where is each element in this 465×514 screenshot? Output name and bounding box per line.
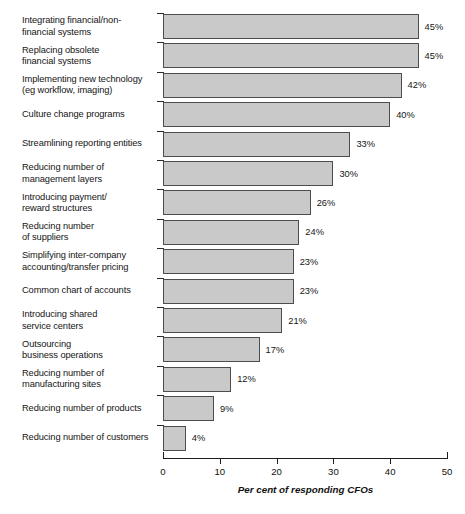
category-label: Reducing number of suppliers xyxy=(22,221,158,244)
category-label: Introducing payment/ reward structures xyxy=(22,192,158,215)
category-label: Reducing number of management layers xyxy=(22,162,158,185)
category-label: Culture change programs xyxy=(22,109,158,120)
x-axis-line xyxy=(163,458,448,459)
bar-row[interactable]: 23% xyxy=(163,279,447,304)
x-axis-tick xyxy=(390,458,391,464)
y-axis-tick xyxy=(157,248,164,249)
bar-row[interactable]: 40% xyxy=(163,102,447,127)
y-axis-tick xyxy=(157,101,164,102)
plot-area: 45%45%42%40%33%30%26%24%23%23%21%17%12%9… xyxy=(163,14,447,458)
bar-value-label: 24% xyxy=(305,227,324,237)
bar[interactable] xyxy=(163,73,402,98)
category-label: Simplifying inter-company accounting/tra… xyxy=(22,250,158,273)
bar-row[interactable]: 30% xyxy=(163,161,447,186)
bar[interactable] xyxy=(163,337,260,362)
bar-row[interactable]: 17% xyxy=(163,337,447,362)
category-label: Common chart of accounts xyxy=(22,285,158,296)
bar-value-label: 45% xyxy=(425,22,444,32)
x-axis-tick-label: 30 xyxy=(328,466,339,477)
bar-value-label: 23% xyxy=(300,257,319,267)
bar-chart: Integrating financial/non- financial sys… xyxy=(0,0,465,514)
category-label: Integrating financial/non- financial sys… xyxy=(22,15,158,38)
x-axis-right-cap xyxy=(447,452,448,459)
x-axis-tick xyxy=(220,458,221,464)
y-axis-tick xyxy=(157,425,164,426)
category-labels: Integrating financial/non- financial sys… xyxy=(0,0,158,458)
bar-row[interactable]: 24% xyxy=(163,220,447,245)
bar-row[interactable]: 12% xyxy=(163,367,447,392)
category-label: Reducing number of products xyxy=(22,403,158,414)
bar-row[interactable]: 26% xyxy=(163,190,447,215)
x-axis-tick-label: 0 xyxy=(160,466,165,477)
y-axis-tick xyxy=(157,189,164,190)
y-axis-tick xyxy=(157,72,164,73)
x-axis-tick-label: 10 xyxy=(214,466,225,477)
bar[interactable] xyxy=(163,396,214,421)
bar-value-label: 42% xyxy=(408,80,427,90)
bar-row[interactable]: 45% xyxy=(163,43,447,68)
y-axis-tick xyxy=(157,366,164,367)
bar-value-label: 30% xyxy=(339,169,358,179)
category-label: Introducing shared service centers xyxy=(22,309,158,332)
category-label: Reducing number of customers xyxy=(22,432,158,443)
bar[interactable] xyxy=(163,132,350,157)
bar-row[interactable]: 4% xyxy=(163,426,447,451)
bar[interactable] xyxy=(163,161,333,186)
bar-row[interactable]: 9% xyxy=(163,396,447,421)
y-axis-tick xyxy=(157,336,164,337)
bar-value-label: 4% xyxy=(192,433,205,443)
bar[interactable] xyxy=(163,220,299,245)
bar-value-label: 21% xyxy=(288,316,307,326)
category-label: Reducing number of manufacturing sites xyxy=(22,368,158,391)
bar-value-label: 26% xyxy=(317,198,336,208)
bar[interactable] xyxy=(163,426,186,451)
bar-row[interactable]: 45% xyxy=(163,14,447,39)
bar[interactable] xyxy=(163,249,294,274)
x-axis-left-cap xyxy=(163,452,164,459)
y-axis-tick xyxy=(157,42,164,43)
y-axis-tick xyxy=(157,278,164,279)
y-axis-tick xyxy=(157,219,164,220)
x-axis-tick-label: 40 xyxy=(385,466,396,477)
y-axis-tick xyxy=(157,160,164,161)
bar-row[interactable]: 33% xyxy=(163,132,447,157)
bar[interactable] xyxy=(163,102,390,127)
bar-value-label: 23% xyxy=(300,286,319,296)
bar-value-label: 9% xyxy=(220,404,233,414)
category-label: Replacing obsolete financial systems xyxy=(22,45,158,68)
y-axis-tick xyxy=(157,13,164,14)
bar-row[interactable]: 21% xyxy=(163,308,447,333)
x-axis-tick-label: 50 xyxy=(442,466,453,477)
bar-value-label: 45% xyxy=(425,51,444,61)
bar-value-label: 12% xyxy=(237,374,256,384)
bar[interactable] xyxy=(163,367,231,392)
y-axis-tick xyxy=(157,131,164,132)
bar-value-label: 40% xyxy=(396,110,415,120)
category-label: Implementing new technology (eg workflow… xyxy=(22,74,158,97)
x-axis-tick-label: 20 xyxy=(271,466,282,477)
bar[interactable] xyxy=(163,279,294,304)
bar-row[interactable]: 42% xyxy=(163,73,447,98)
bar-value-label: 17% xyxy=(266,345,285,355)
category-label: Outsourcing business operations xyxy=(22,339,158,362)
y-axis-tick xyxy=(157,395,164,396)
x-axis-tick xyxy=(277,458,278,464)
y-axis-tick xyxy=(157,307,164,308)
x-axis-tick xyxy=(333,458,334,464)
bar[interactable] xyxy=(163,308,282,333)
bar[interactable] xyxy=(163,190,311,215)
bar[interactable] xyxy=(163,14,419,39)
bar-row[interactable]: 23% xyxy=(163,249,447,274)
x-axis-title: Per cent of responding CFOs xyxy=(163,484,448,495)
category-label: Streamlining reporting entities xyxy=(22,138,158,149)
bar-value-label: 33% xyxy=(356,139,375,149)
bar[interactable] xyxy=(163,43,419,68)
